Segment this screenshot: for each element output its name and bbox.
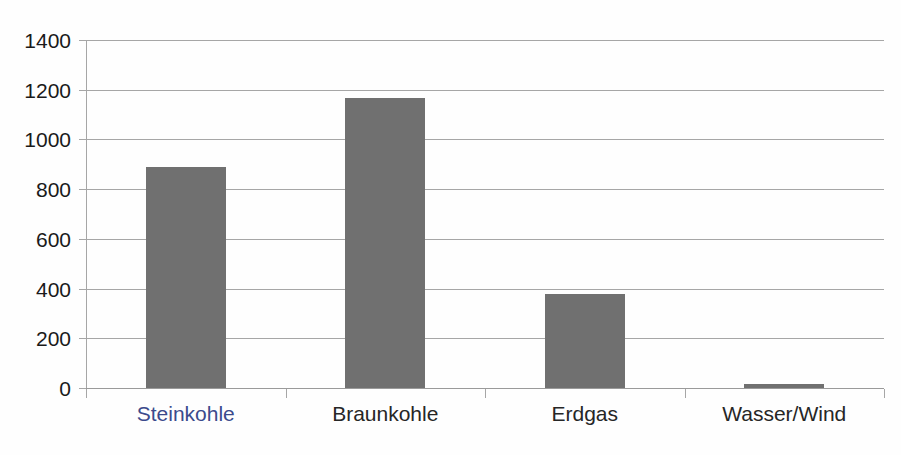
y-axis-label: 1400 [0,30,71,51]
plot-area [86,40,884,388]
y-axis-tick [79,289,86,290]
bar-chart: 0200400600800100012001400 SteinkohleBrau… [0,0,901,455]
bar [146,167,226,388]
y-axis-label: 600 [0,228,71,249]
bar [345,98,425,388]
y-axis-tick [79,239,86,240]
x-axis-category-label: Braunkohle [286,402,486,425]
x-axis-category-label: Erdgas [485,402,685,425]
y-axis-tick [79,40,86,41]
y-axis-tick [79,189,86,190]
y-axis-label: 1200 [0,79,71,100]
y-axis-label: 200 [0,328,71,349]
x-axis-tick [884,389,885,398]
x-axis-tick [86,389,87,398]
cut-off-caption [0,437,901,455]
gridline [86,139,884,140]
y-axis-label: 400 [0,278,71,299]
x-axis-tick [286,389,287,398]
y-axis-tick [79,90,86,91]
x-axis-tick [685,389,686,398]
cut-off-caption-text [0,437,5,445]
y-axis-label: 800 [0,179,71,200]
y-axis-label: 1000 [0,129,71,150]
y-axis-label: 0 [0,378,71,399]
gridline [86,90,884,91]
bar [744,384,824,388]
bar [545,294,625,388]
gridline [86,40,884,41]
x-axis-category-label: Wasser/Wind [685,402,885,425]
y-axis-tick [79,338,86,339]
y-axis-tick [79,388,86,389]
y-axis-tick [79,139,86,140]
x-axis-tick [485,389,486,398]
x-axis-category-label: Steinkohle [86,402,286,425]
